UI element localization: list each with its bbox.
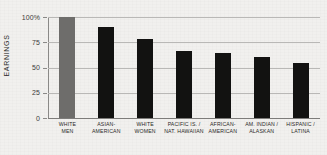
bar: [59, 17, 75, 118]
y-tick-mark-50: [43, 68, 47, 69]
y-tick-mark-100: [43, 17, 47, 18]
bar: [293, 63, 309, 118]
y-tick-label-100: 100%: [0, 14, 40, 21]
y-axis-title: EARNINGS: [3, 26, 10, 86]
gridline-100: [48, 17, 320, 18]
bar: [254, 57, 270, 118]
y-tick-label-25: 25: [0, 89, 40, 96]
bar: [98, 27, 114, 118]
plot-area: [48, 17, 320, 118]
y-tick-mark-75: [43, 42, 47, 43]
bar: [215, 53, 231, 118]
earnings-bar-chart: 100%7550250 EARNINGS WHITEMENASIAN-AMERI…: [0, 0, 327, 155]
y-tick-label-0: 0: [0, 115, 40, 122]
x-axis-label: HISPANIC /LATINA: [276, 121, 325, 135]
x-axis-label-line: HISPANIC /: [276, 121, 325, 128]
x-axis-label-line: LATINA: [276, 128, 325, 135]
y-tick-mark-0: [43, 118, 47, 119]
gridline-0: [48, 118, 320, 119]
gridline-75: [48, 42, 320, 43]
bar: [176, 51, 192, 118]
y-tick-mark-25: [43, 93, 47, 94]
x-axis-label-group: WHITEMENASIAN-AMERICANWHITEWOMENPACIFIC …: [48, 121, 320, 151]
bar: [137, 39, 153, 118]
